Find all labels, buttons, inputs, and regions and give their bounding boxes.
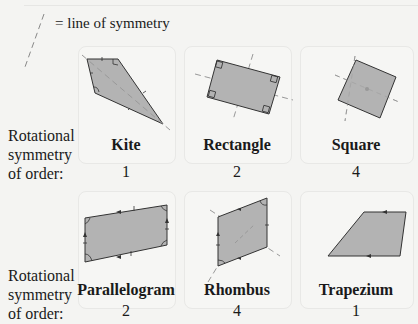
top-divider xyxy=(24,5,418,6)
order-square: 4 xyxy=(336,163,376,181)
rotational-symmetry-label-row1: Rotational symmetry of order: xyxy=(8,126,75,183)
shape-label-square: Square xyxy=(301,136,411,154)
shape-label-kite: Kite xyxy=(71,136,181,154)
order-parallelogram: 2 xyxy=(106,302,146,320)
shape-label-trapezium: Trapezium xyxy=(301,281,411,299)
order-kite: 1 xyxy=(106,163,146,181)
order-trapezium: 1 xyxy=(336,302,376,320)
dashed-line-icon xyxy=(22,12,52,72)
shape-label-rhombus: Rhombus xyxy=(182,281,292,299)
order-rectangle: 2 xyxy=(217,163,257,181)
rotational-symmetry-label-row2: Rotational symmetry of order: xyxy=(8,266,75,323)
order-rhombus: 4 xyxy=(217,302,257,320)
shape-label-parallelogram: Parallelogram xyxy=(71,281,181,299)
shape-label-rectangle: Rectangle xyxy=(182,136,292,154)
legend-label: = line of symmetry xyxy=(55,15,170,32)
